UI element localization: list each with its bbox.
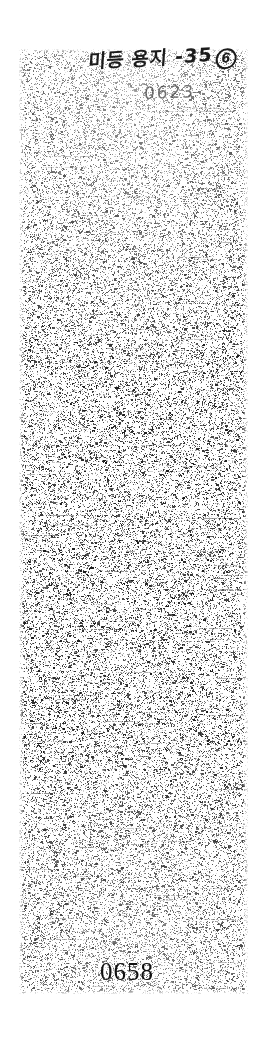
document-page: 미등 용지 -356 0623 0658 [0,0,266,1038]
scanned-noise-region [18,48,249,995]
scan-noise-texture [18,48,249,995]
